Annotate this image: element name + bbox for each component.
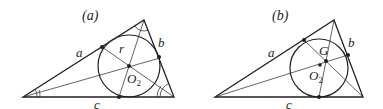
cevian-left-b	[215, 55, 348, 97]
point-g-label: G	[319, 43, 329, 58]
tangent-point-b-a	[157, 55, 161, 59]
side-label-c-a: c	[94, 97, 100, 109]
panel-b-title: (b)	[272, 8, 289, 24]
tangent-point-a-b	[302, 38, 306, 42]
side-label-a-a: a	[76, 45, 83, 60]
bisector-right-a	[102, 47, 174, 97]
point-g-b	[324, 59, 328, 63]
angle-arc-right-3	[163, 84, 168, 88]
angle-arc-left-1	[36, 91, 37, 97]
side-label-a-b: a	[268, 45, 275, 60]
triangle-b	[215, 20, 363, 97]
tangent-point-c-b	[317, 95, 321, 99]
side-label-b-a: b	[158, 35, 165, 50]
side-label-c-b: c	[286, 97, 292, 109]
tangent-point-a-a	[100, 45, 104, 49]
panel-a-title: (a)	[82, 8, 99, 24]
radius-label-a: r	[119, 41, 125, 56]
incenter-b	[318, 63, 322, 67]
panel-a: (a) a b c r O2	[23, 8, 174, 109]
incenter-label-b: O2	[309, 68, 323, 85]
cevian-top-b	[319, 20, 334, 97]
incenter-label-a: O2	[127, 71, 141, 88]
angle-arc-left-3	[35, 90, 36, 91]
tangent-point-b-b	[346, 53, 350, 57]
side-label-b-b: b	[348, 35, 355, 50]
panel-b: (b) a b c G O2	[215, 8, 363, 109]
geometry-figure: (a) a b c r O2 (b)	[0, 0, 383, 109]
angle-arc-left-2	[39, 90, 40, 97]
tangent-point-c-a	[117, 95, 121, 99]
incenter-a	[127, 64, 131, 68]
